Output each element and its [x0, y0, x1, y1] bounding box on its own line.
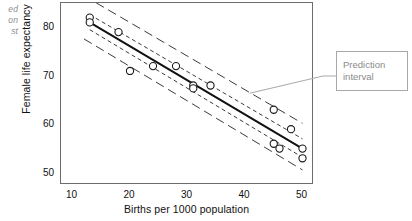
data-point-12 — [287, 126, 294, 133]
data-point-14 — [299, 155, 306, 162]
plot-canvas — [61, 3, 314, 185]
margin-note-text: ed on st — [0, 4, 18, 37]
data-point-4 — [149, 62, 156, 69]
x-tick-10: 10 — [57, 189, 87, 200]
annotation-prediction-interval: Prediction interval — [336, 51, 408, 91]
x-tick-30: 30 — [172, 189, 202, 200]
data-point-5 — [172, 62, 179, 69]
annotation-line-2: interval — [343, 71, 407, 83]
data-point-2 — [115, 29, 122, 36]
y-tick-70: 70 — [28, 69, 54, 80]
y-axis-label: Female life expectancy — [20, 0, 32, 129]
y-tick-50: 50 — [28, 166, 54, 177]
y-tick-60: 60 — [28, 118, 54, 129]
data-point-8 — [207, 82, 214, 89]
plot-frame — [60, 2, 313, 184]
series-2-short-dashed — [90, 30, 303, 158]
y-tick-80: 80 — [28, 21, 54, 32]
x-tick-50: 50 — [287, 189, 317, 200]
data-point-13 — [299, 145, 306, 152]
data-point-1 — [86, 19, 93, 26]
x-tick-40: 40 — [229, 189, 259, 200]
data-point-9 — [270, 106, 277, 113]
figure-scatter-regression: ed on st Female life expectancy 50607080… — [0, 0, 412, 221]
data-point-7 — [190, 85, 197, 92]
data-point-11 — [276, 145, 283, 152]
annotation-line-1: Prediction — [343, 59, 407, 71]
data-point-3 — [126, 67, 133, 74]
series-3-long-dashed — [84, 3, 303, 123]
x-axis-label: Births per 1000 population — [60, 203, 313, 215]
x-tick-20: 20 — [114, 189, 144, 200]
